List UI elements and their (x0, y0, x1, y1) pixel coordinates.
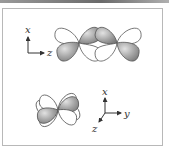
y-axis-label: y (123, 108, 130, 119)
lobe-lower-left (37, 107, 59, 125)
z-axis-label: z (91, 123, 98, 134)
lobe-lower-right (117, 42, 139, 61)
bottom-orbital-pair (35, 92, 81, 127)
orbital-diagram: x z x y (0, 0, 169, 154)
z-axis-label: z (46, 47, 53, 58)
bottom-axes: x y z (91, 86, 130, 134)
front-d-orbital (37, 93, 80, 127)
x-axis-label: x (102, 86, 108, 97)
lobe-lower-left (57, 42, 79, 61)
lobe-upper-left (55, 28, 79, 44)
top-axes: x z (25, 24, 53, 58)
lobe-lower-left (95, 43, 117, 61)
lobe-upper-right (117, 28, 141, 44)
right-d-orbital (95, 27, 141, 61)
lobe-upper-left (95, 27, 117, 43)
x-axis-label: x (25, 24, 31, 35)
left-d-orbital (55, 27, 101, 61)
z-axis-arrow (99, 113, 105, 122)
